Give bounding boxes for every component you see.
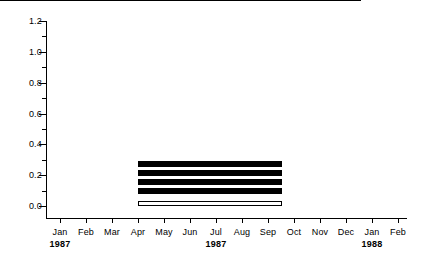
y-axis-tick-label: 0.8	[29, 79, 42, 88]
x-axis-tick	[112, 218, 113, 223]
x-axis-year-label: 1987	[206, 239, 227, 249]
x-axis-tick	[138, 218, 139, 223]
x-axis-month-label: May	[155, 227, 173, 237]
y-axis-tick-minor	[42, 129, 46, 130]
y-axis-tick-label: 1.2	[29, 17, 42, 26]
x-axis-tick	[294, 218, 295, 223]
y-axis-tick-label: 0.6	[29, 110, 42, 119]
x-axis-month-label: Sep	[260, 227, 277, 237]
x-axis-tick	[216, 218, 217, 223]
x-axis-tick	[320, 218, 321, 223]
y-axis-tick-minor	[42, 36, 46, 37]
x-axis-month-label: Oct	[287, 227, 302, 237]
y-axis-tick-minor	[42, 98, 46, 99]
x-axis-tick	[60, 218, 61, 223]
x-axis-tick	[346, 218, 347, 223]
y-axis-tick-minor	[42, 67, 46, 68]
x-axis-tick	[398, 218, 399, 223]
chart-canvas: 0.00.20.40.60.81.01.2 JanFebMarAprMayJun…	[0, 0, 421, 265]
x-axis-year-label: 1987	[50, 239, 71, 249]
x-axis-tick	[242, 218, 243, 223]
x-axis-month-label: Feb	[390, 227, 406, 237]
x-axis-tick	[164, 218, 165, 223]
x-axis-month-label: Jul	[210, 227, 222, 237]
x-axis-tick	[190, 218, 191, 223]
x-axis-tick	[372, 218, 373, 223]
bar-bar-3	[138, 179, 282, 185]
bar-bar-4	[138, 188, 282, 194]
x-axis-month-label: Nov	[312, 227, 329, 237]
y-axis-tick-label: 0.4	[29, 140, 42, 149]
x-axis-tick	[268, 218, 269, 223]
bar-bar-5	[138, 201, 282, 206]
x-axis-month-label: Apr	[131, 227, 146, 237]
x-axis-month-label: Jun	[182, 227, 197, 237]
x-axis-month-label: Aug	[234, 227, 251, 237]
y-axis-tick-label: 1.0	[29, 48, 42, 57]
x-axis-month-label: Jan	[364, 227, 379, 237]
bar-bar-1	[138, 161, 282, 167]
y-axis-tick-minor	[42, 160, 46, 161]
y-axis-line	[46, 21, 47, 219]
x-axis-month-label: Jan	[52, 227, 67, 237]
bar-bar-2	[138, 170, 282, 176]
x-axis-month-label: Dec	[338, 227, 355, 237]
x-axis-tick	[86, 218, 87, 223]
y-axis-tick-minor	[42, 191, 46, 192]
x-axis-year-label: 1988	[362, 239, 383, 249]
x-axis-month-label: Feb	[78, 227, 94, 237]
zero-baseline	[0, 0, 361, 1]
y-axis-tick-label: 0.0	[29, 202, 42, 211]
x-axis-line	[46, 218, 407, 219]
y-axis-tick-label: 0.2	[29, 171, 42, 180]
x-axis-month-label: Mar	[104, 227, 120, 237]
